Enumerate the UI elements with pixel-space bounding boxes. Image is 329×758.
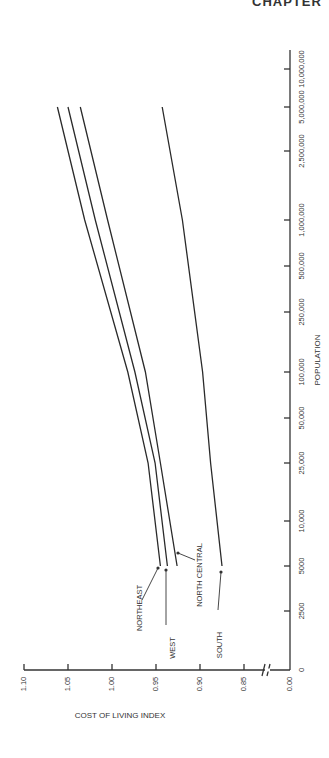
svg-text:POPULATION: POPULATION — [313, 334, 322, 385]
x-tick-label: 250,000 — [297, 298, 306, 325]
svg-text:NORTHEAST: NORTHEAST — [135, 585, 144, 632]
x-tick-label: 2500 — [297, 603, 306, 620]
line-south — [162, 107, 222, 566]
svg-text:1.05: 1.05 — [63, 677, 72, 692]
svg-text:WEST: WEST — [168, 637, 177, 659]
cost-of-living-chart: 02500500010,00025,00050,000100,000250,00… — [0, 0, 329, 758]
svg-text:1.10: 1.10 — [19, 677, 28, 692]
line-northeast — [57, 107, 160, 566]
data-lines — [57, 107, 222, 566]
x-tick-label: 0 — [297, 668, 306, 672]
x-tick-label: 100,000 — [297, 358, 306, 385]
axes — [24, 50, 290, 676]
svg-text:COST OF LIVING INDEX: COST OF LIVING INDEX — [75, 711, 166, 720]
series-labels: NORTHEASTWESTNORTH CENTRALSOUTH — [135, 543, 224, 659]
x-tick-label: 10,000 — [297, 510, 306, 533]
svg-text:NORTH CENTRAL: NORTH CENTRAL — [195, 543, 204, 607]
x-tick-label: 5000 — [297, 558, 306, 575]
x-tick-label: 10,000,000 — [297, 50, 306, 88]
x-tick-label: 1,000,000 — [297, 203, 306, 236]
x-tick-label: 500,000 — [297, 252, 306, 279]
x-tick-label: 50,000 — [297, 407, 306, 430]
x-tick-label: 25,000 — [297, 452, 306, 475]
svg-text:0.85: 0.85 — [239, 677, 248, 692]
svg-text:0.95: 0.95 — [151, 677, 160, 692]
svg-text:0.00: 0.00 — [285, 677, 294, 692]
svg-text:SOUTH: SOUTH — [215, 632, 224, 658]
x-tick-label: 5,000,000 — [297, 90, 306, 123]
svg-text:0.90: 0.90 — [195, 677, 204, 692]
svg-text:1.00: 1.00 — [107, 677, 116, 692]
x-tick-label: 2,500,000 — [297, 134, 306, 167]
line-north-central — [80, 107, 177, 566]
